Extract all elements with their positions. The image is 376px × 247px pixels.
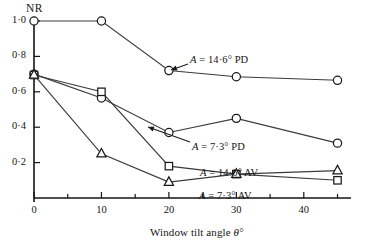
y-axis-tick-label: 1·0 [2, 14, 26, 25]
x-axis-tick-label: 0 [22, 204, 46, 215]
data-point-marker [97, 17, 105, 25]
x-axis-title-symbol: θ° [234, 226, 244, 238]
x-axis-title-text: Window tilt angle [150, 226, 234, 238]
series-annotation-label: A = 14·6° AV [200, 167, 258, 178]
x-axis-tick-label: 30 [224, 204, 248, 215]
data-point-marker [232, 114, 240, 122]
x-axis-tick-label: 10 [89, 204, 113, 215]
data-point-marker [333, 139, 341, 147]
series-line-1 [34, 74, 338, 143]
data-point-marker [334, 177, 341, 184]
series-annotation-label: A = 7·3° AV [199, 190, 252, 201]
y-axis-tick-label: 0·2 [2, 156, 26, 167]
y-axis-tick-label: 0·8 [2, 49, 26, 60]
series-annotation-label: A = 7·3° PD [192, 141, 245, 152]
data-point-marker [165, 162, 172, 169]
annotation-arrow-0 [171, 64, 188, 71]
chart-plot-area [0, 0, 376, 247]
y-axis-title: NR [26, 2, 43, 14]
data-point-marker [30, 17, 38, 25]
y-axis-tick-label: 0·4 [2, 120, 26, 131]
chart-figure: NR Window tilt angle θ° 0102030400·20·40… [0, 0, 376, 247]
x-axis-tick-label: 20 [157, 204, 181, 215]
data-point-marker [165, 66, 173, 74]
data-point-marker [98, 88, 105, 95]
data-point-marker [232, 73, 240, 81]
data-point-marker [333, 165, 342, 173]
x-axis-tick-label: 40 [292, 204, 316, 215]
series-annotation-label: A = 14·6° PD [190, 54, 248, 65]
y-axis-tick-label: 0·6 [2, 85, 26, 96]
data-point-marker [333, 76, 341, 84]
series-line-0 [34, 21, 338, 80]
x-axis-title: Window tilt angle θ° [150, 226, 244, 238]
